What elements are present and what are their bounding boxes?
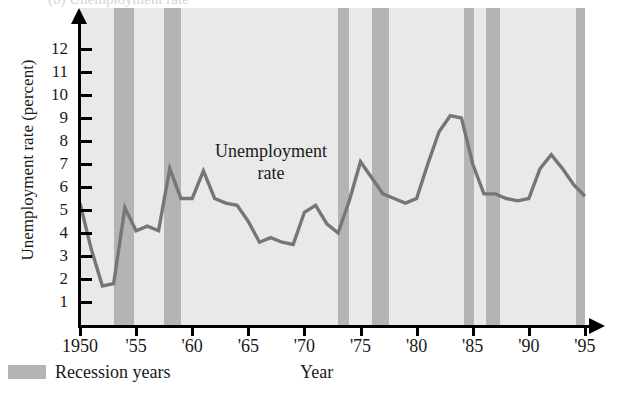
y-tick (78, 186, 92, 189)
x-tick (135, 325, 138, 336)
x-tick (303, 325, 306, 336)
y-tick (78, 94, 92, 97)
y-tick (78, 255, 92, 258)
recession-years-swatch (8, 365, 46, 379)
figure-cutoff-title: (b) Unemployment rate (48, 0, 189, 8)
x-tick (191, 325, 194, 336)
y-tick (78, 48, 92, 51)
x-tick-label: '80 (406, 336, 427, 356)
chart-figure: (b) Unemployment rate Unemployment rate … (0, 0, 625, 396)
x-tick (584, 325, 587, 336)
x-axis-title: Year (300, 362, 333, 382)
series-annotation-line2: rate (196, 162, 346, 184)
x-tick-label: '65 (238, 336, 259, 356)
x-tick (528, 325, 531, 336)
x-tick-label: '90 (518, 336, 539, 356)
y-axis-line (78, 22, 81, 328)
x-tick-label: '95 (574, 336, 595, 356)
x-tick (472, 325, 475, 336)
series-annotation-line1: Unemployment (196, 140, 346, 162)
y-tick (78, 301, 92, 304)
y-tick (78, 117, 92, 120)
x-axis-line (78, 325, 590, 328)
x-tick (360, 325, 363, 336)
y-tick (78, 232, 92, 235)
y-tick (78, 71, 92, 74)
x-tick-label: '60 (182, 336, 203, 356)
legend: Recession years (8, 362, 170, 382)
x-tick-label: 1950 (62, 336, 98, 356)
y-tick (78, 163, 92, 166)
y-tick (78, 209, 92, 212)
y-axis-arrowhead (71, 8, 87, 24)
legend-label-recession-years: Recession years (55, 362, 170, 382)
y-tick (78, 278, 92, 281)
x-tick (79, 325, 82, 336)
y-axis-title: Unemployment rate (percent) (18, 10, 38, 310)
y-axis-title-wrap: Unemployment rate (percent) (0, 0, 40, 340)
x-tick-label: '85 (462, 336, 483, 356)
x-tick-label: '75 (350, 336, 371, 356)
series-annotation: Unemployment rate (196, 140, 346, 184)
x-tick-label: '70 (294, 336, 315, 356)
x-tick (416, 325, 419, 336)
y-tick (78, 140, 92, 143)
x-axis-arrowhead (589, 318, 605, 334)
x-tick (247, 325, 250, 336)
x-tick-label: '55 (125, 336, 146, 356)
